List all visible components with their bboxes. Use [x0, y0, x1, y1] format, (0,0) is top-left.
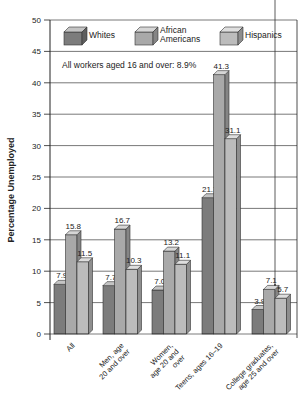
- bar-value-label: 10.3: [126, 256, 142, 265]
- bar-group: 7.915.811.5: [54, 222, 93, 334]
- bar-chart: 05101520253035404550 Percentage Unemploy…: [0, 0, 307, 411]
- x-tick-label: Men, age20 and over: [91, 341, 132, 382]
- y-tick-label: 15: [32, 236, 41, 245]
- y-tick-label: 45: [32, 47, 41, 56]
- bar: [252, 310, 264, 334]
- legend-item: Hispanics: [220, 27, 282, 45]
- bar-value-label: 15.8: [65, 222, 81, 231]
- bar-group: 7.013.211.1: [152, 238, 191, 334]
- bar: [66, 235, 78, 334]
- bar: [54, 284, 66, 334]
- annotation-all-workers: All workers aged 16 and over: 8.9%: [62, 60, 197, 70]
- bar-side: [138, 265, 142, 334]
- bar: [202, 198, 214, 334]
- bar-group: 21.741.331.1: [202, 62, 241, 334]
- y-tick-label: 30: [32, 142, 41, 151]
- bar: [77, 262, 89, 334]
- y-tick-label: 0: [37, 330, 42, 339]
- bar-value-label: 41.3: [213, 62, 229, 71]
- bar-value-label: 13.2: [163, 238, 179, 247]
- bar-value-label: 16.7: [114, 216, 130, 225]
- legend-swatch: [64, 32, 82, 45]
- bar-side: [287, 294, 291, 334]
- y-tick-label: 40: [32, 79, 41, 88]
- y-tick-label: 50: [32, 16, 41, 25]
- bar-value-label: 31.1: [225, 126, 241, 135]
- x-axis-labels: AllMen, age20 and overWomen,age 20 andov…: [64, 341, 281, 398]
- y-axis-label: Percentage Unemployed: [6, 137, 16, 242]
- bar: [126, 269, 138, 334]
- bar-value-label: 11.5: [77, 249, 93, 258]
- legend-label: Whites: [89, 30, 115, 40]
- y-tick-label: 25: [32, 173, 41, 182]
- bar: [164, 251, 176, 334]
- bar-side: [187, 260, 191, 334]
- bar: [175, 264, 187, 334]
- y-tick-label: 5: [37, 299, 42, 308]
- legend-item: Whites: [64, 27, 115, 45]
- bar-side: [89, 258, 93, 334]
- legend-swatch: [220, 32, 238, 45]
- legend-item: AfricanAmericans: [135, 25, 200, 45]
- bar: [152, 290, 164, 334]
- bar-value-label: 5.7: [277, 285, 289, 294]
- bar-groups: 7.915.811.57.716.710.37.013.211.121.741.…: [50, 62, 297, 334]
- bar-group: 3.97.15.7: [252, 276, 291, 334]
- bar: [214, 75, 226, 334]
- bar: [115, 229, 127, 334]
- bar: [264, 289, 276, 334]
- bar: [103, 286, 115, 334]
- bar-value-label: 11.1: [175, 251, 191, 260]
- y-tick-label: 35: [32, 110, 41, 119]
- bar-group: 7.716.710.3: [103, 216, 142, 334]
- legend: WhitesAfricanAmericansHispanics: [64, 25, 282, 45]
- y-tick-label: 10: [32, 267, 41, 276]
- y-tick-label: 20: [32, 204, 41, 213]
- x-tick-label: College graduates,age 25 and over: [224, 341, 281, 398]
- bar: [275, 298, 287, 334]
- stray-dot: [274, 284, 276, 286]
- legend-swatch: [135, 32, 153, 45]
- x-tick-label: Teens, ages 16–19: [173, 341, 224, 392]
- legend-label: Hispanics: [245, 30, 282, 40]
- x-tick-label: All: [64, 341, 76, 353]
- bar: [225, 139, 237, 334]
- legend-label: AfricanAmericans: [160, 25, 200, 44]
- bar-value-label: 7.1: [266, 276, 278, 285]
- bar-side: [237, 135, 241, 334]
